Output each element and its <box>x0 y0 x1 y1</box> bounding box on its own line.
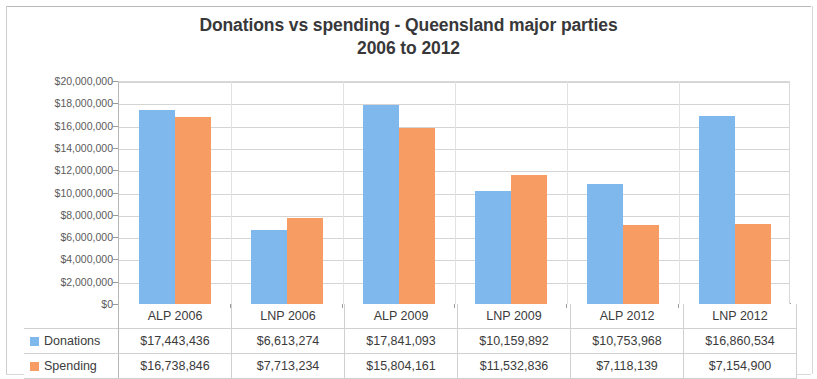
y-axis-tick-label: $20,000,000 <box>3 76 113 86</box>
category-separator <box>567 82 568 304</box>
y-axis-tick-label: $6,000,000 <box>3 232 113 242</box>
y-axis-tick-label: $16,000,000 <box>3 121 113 131</box>
category-separator <box>231 82 232 304</box>
bar-spending-lnp-2009 <box>511 175 547 304</box>
table-cell-spending: $15,804,161 <box>345 354 458 379</box>
bar-donations-alp-2012 <box>587 184 623 304</box>
legend-row-label-spending: Spending <box>24 354 119 379</box>
y-axis-tick-mark <box>113 282 118 283</box>
y-axis-tick-label: $10,000,000 <box>3 188 113 198</box>
x-axis-tick-mark <box>342 304 343 308</box>
x-axis-category-label: LNP 2009 <box>458 304 571 329</box>
chart-container: Donations vs spending - Queensland major… <box>0 0 817 379</box>
bar-spending-alp-2009 <box>399 128 435 304</box>
table-cell-donations: $6,613,274 <box>232 329 345 354</box>
y-axis-tick-label: $4,000,000 <box>3 254 113 264</box>
gridline <box>119 82 789 83</box>
bar-donations-alp-2006 <box>139 110 175 304</box>
chart-title: Donations vs spending - Queensland major… <box>0 14 817 60</box>
table-cell-donations: $10,753,968 <box>571 329 684 354</box>
chart-title-line-2: 2006 to 2012 <box>0 37 817 60</box>
x-axis-tick-mark <box>678 304 679 308</box>
chart-title-line-1: Donations vs spending - Queensland major… <box>199 15 617 35</box>
y-axis-tick-mark <box>113 170 118 171</box>
table-cell-spending: $11,532,836 <box>458 354 571 379</box>
gridline <box>119 171 789 172</box>
x-axis-tick-mark <box>230 304 231 308</box>
table-corner-cell <box>24 304 119 329</box>
table-cell-spending: $16,738,846 <box>119 354 232 379</box>
legend-row-label-donations: Donations <box>24 329 119 354</box>
gridline <box>119 283 789 284</box>
y-axis-tick-mark <box>113 126 118 127</box>
gridline <box>119 238 789 239</box>
gridline <box>119 216 789 217</box>
gridline <box>119 194 789 195</box>
table-cell-donations: $10,159,892 <box>458 329 571 354</box>
data-table: ALP 2006LNP 2006ALP 2009LNP 2009ALP 2012… <box>24 304 797 379</box>
series-name-spending: Spending <box>44 359 97 373</box>
bar-donations-lnp-2009 <box>475 191 511 304</box>
x-axis-tick-mark <box>566 304 567 308</box>
bar-donations-lnp-2012 <box>699 116 735 304</box>
y-axis-tick-mark <box>113 237 118 238</box>
legend-swatch-donations-icon <box>30 337 39 346</box>
y-axis-tick-mark <box>113 193 118 194</box>
table-cell-donations: $17,443,436 <box>119 329 232 354</box>
table-cell-donations: $17,841,093 <box>345 329 458 354</box>
y-axis-tick-label: $2,000,000 <box>3 277 113 287</box>
y-axis-tick-mark <box>113 304 118 305</box>
bar-donations-alp-2009 <box>363 105 399 304</box>
gridline <box>119 104 789 105</box>
gridline <box>119 149 789 150</box>
table-row-donations: Donations $17,443,436$6,613,274$17,841,0… <box>24 329 797 354</box>
x-axis-category-label: ALP 2009 <box>345 304 458 329</box>
y-axis-tick-label: $18,000,000 <box>3 98 113 108</box>
frame-border-right <box>812 6 813 374</box>
y-axis-tick-label: $8,000,000 <box>3 210 113 220</box>
table-row-spending: Spending $16,738,846$7,713,234$15,804,16… <box>24 354 797 379</box>
table-cell-spending: $7,118,139 <box>571 354 684 379</box>
plot-area <box>118 81 790 304</box>
category-separator <box>455 82 456 304</box>
x-axis-category-label: ALP 2006 <box>119 304 232 329</box>
x-axis-category-label: ALP 2012 <box>571 304 684 329</box>
y-axis-tick-mark <box>113 215 118 216</box>
bar-spending-alp-2012 <box>623 225 659 304</box>
y-axis-tick-mark <box>113 148 118 149</box>
x-axis-tick-mark <box>454 304 455 308</box>
legend-swatch-spending-icon <box>30 362 39 371</box>
y-axis-tick-label: $12,000,000 <box>3 165 113 175</box>
y-axis-tick-label: $14,000,000 <box>3 143 113 153</box>
y-axis-tick-mark <box>113 103 118 104</box>
frame-border-top <box>6 6 811 7</box>
bar-spending-alp-2006 <box>175 117 211 304</box>
gridline <box>119 127 789 128</box>
category-separator <box>343 82 344 304</box>
table-cell-donations: $16,860,534 <box>684 329 797 354</box>
bar-spending-lnp-2012 <box>735 224 771 304</box>
table-cell-spending: $7,713,234 <box>232 354 345 379</box>
table-row-categories: ALP 2006LNP 2006ALP 2009LNP 2009ALP 2012… <box>24 304 797 329</box>
table-cell-spending: $7,154,900 <box>684 354 797 379</box>
series-name-donations: Donations <box>44 334 100 348</box>
y-axis-tick-mark <box>113 259 118 260</box>
y-axis-tick-mark <box>113 81 118 82</box>
x-axis-category-label: LNP 2006 <box>232 304 345 329</box>
bar-donations-lnp-2006 <box>251 230 287 304</box>
gridline <box>119 260 789 261</box>
bar-spending-lnp-2006 <box>287 218 323 304</box>
category-separator <box>679 82 680 304</box>
x-axis-category-label: LNP 2012 <box>684 304 797 329</box>
